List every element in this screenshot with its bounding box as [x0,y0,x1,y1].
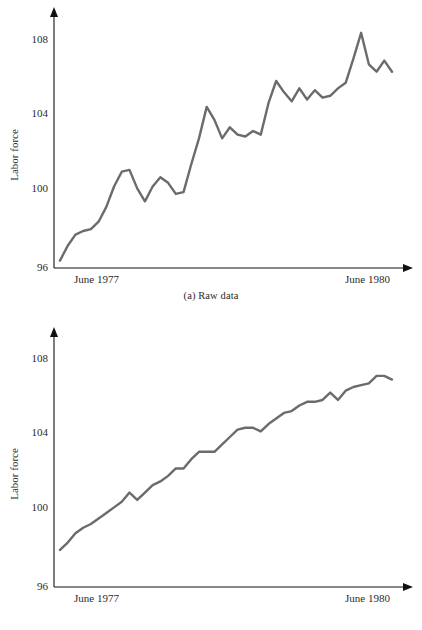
y-axis-arrowhead [50,7,58,17]
chart-panel-raw-data: 96 100 104 108 Labor force June 1977 Jun… [0,0,422,310]
x-tick-label-start: June 1977 [74,273,119,285]
figure-page: 96 100 104 108 Labor force June 1977 Jun… [0,0,422,630]
y-tick-label-96: 96 [37,261,49,273]
x-tick-label-start: June 1977 [74,592,119,604]
x-tick-label-end: June 1980 [345,273,390,285]
seasonally-adjusted-chart-svg: 96 100 104 108 Labor force June 1977 Jun… [0,312,422,604]
x-axis-arrowhead [403,264,413,272]
panel-a-caption: (a) Raw data [0,290,422,301]
y-tick-label-108: 108 [32,33,49,45]
y-tick-label-96: 96 [37,580,49,592]
seasonally-adjusted-series-line [60,376,392,550]
chart-panel-seasonally-adjusted: 96 100 104 108 Labor force June 1977 Jun… [0,312,422,630]
y-tick-label-108: 108 [32,352,49,364]
y-axis-arrowhead [50,327,58,337]
y-tick-label-100: 100 [32,501,49,513]
y-axis-title: Labor force [8,448,20,500]
y-tick-label-100: 100 [32,182,49,194]
x-tick-label-end: June 1980 [345,592,390,604]
x-axis-arrowhead [403,583,413,591]
y-tick-label-104: 104 [32,107,49,119]
raw-data-series-line [60,33,392,261]
y-axis-title: Labor force [8,129,20,181]
y-tick-label-104: 104 [32,426,49,438]
raw-data-chart-svg: 96 100 104 108 Labor force June 1977 Jun… [0,0,422,285]
